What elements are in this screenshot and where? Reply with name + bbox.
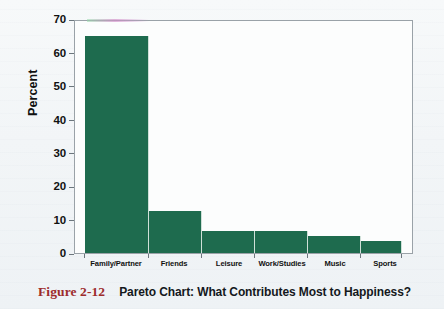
x-axis-tick	[148, 254, 149, 258]
chart-plot-frame	[74, 20, 413, 254]
bar-leisure[interactable]	[202, 231, 255, 253]
bar-sports[interactable]	[361, 241, 402, 253]
x-axis-label-work-studies: Work/Studies	[258, 259, 305, 268]
x-axis-label-sports: Sports	[373, 259, 396, 268]
x-axis-tick	[360, 254, 361, 258]
y-axis-tick-label: 40	[54, 115, 69, 127]
bar-work-studies[interactable]	[255, 231, 308, 253]
figure-caption: Figure 2-12 Pareto Chart: What Contribut…	[38, 284, 411, 300]
y-axis-tick-label: 50	[54, 81, 69, 93]
bar-music[interactable]	[308, 236, 361, 253]
y-axis-tick-label: 60	[54, 48, 69, 60]
bar-series	[75, 21, 412, 253]
x-axis-tick	[401, 254, 402, 258]
y-axis-tick-label: 70	[54, 14, 69, 26]
figure-title: Pareto Chart: What Contributes Most to H…	[119, 285, 411, 299]
bar-family-partner[interactable]	[85, 36, 149, 253]
x-axis: Family/Partner Friends Leisure Work/Stud…	[74, 254, 413, 274]
x-axis-label-family-partner: Family/Partner	[90, 259, 141, 268]
x-axis-label-leisure: Leisure	[216, 259, 242, 268]
figure-number: Figure 2-12	[38, 284, 105, 300]
y-axis-tick-label: 20	[54, 181, 69, 193]
plot-left-pad	[75, 252, 85, 253]
x-axis-tick	[254, 254, 255, 258]
y-axis-tick-label: 30	[54, 148, 69, 160]
y-axis-title: Percent	[26, 69, 40, 116]
y-axis-tick-label: 0	[60, 248, 69, 260]
x-axis-tick	[307, 254, 308, 258]
x-axis-tick	[201, 254, 202, 258]
x-axis-tick	[84, 254, 85, 258]
plot-right-pad	[402, 252, 412, 253]
x-axis-label-friends: Friends	[161, 259, 188, 268]
y-axis-tick-label: 10	[54, 215, 69, 227]
y-axis: Percent 0 10 20 30 40 50 60 70	[0, 20, 74, 254]
bar-friends[interactable]	[149, 211, 202, 253]
x-axis-label-music: Music	[324, 259, 345, 268]
